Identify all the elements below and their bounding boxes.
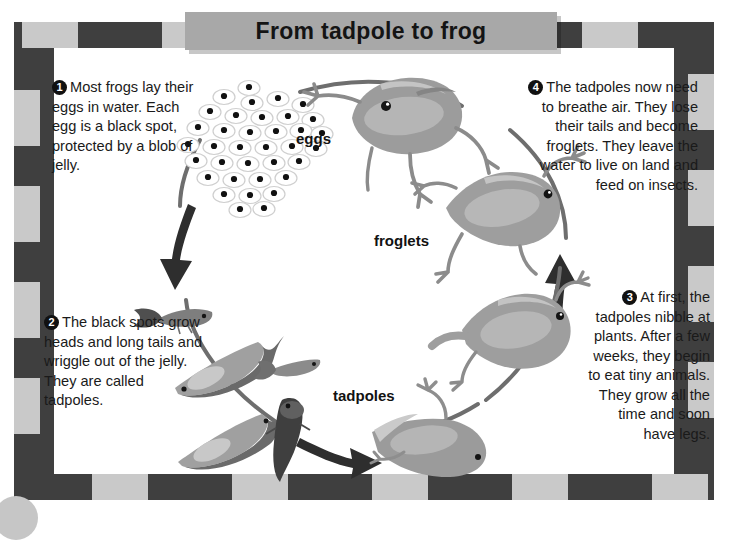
- step-4-number: 4: [528, 80, 543, 95]
- step-3-number: 3: [622, 290, 637, 305]
- step-1-number: 1: [52, 80, 67, 95]
- tadpole-small-center: [254, 360, 320, 380]
- arrow-tadpoles-to-legged: [296, 438, 382, 479]
- step-4-body: The tadpoles now need to breathe air. Th…: [540, 79, 698, 193]
- caption-froglets: froglets: [374, 232, 429, 249]
- step-1-body: Most frogs lay their eggs in water. Each…: [52, 79, 193, 173]
- caption-eggs: eggs: [296, 130, 331, 147]
- step-2-number: 2: [44, 315, 59, 330]
- arrow-eggs-to-tadpoles: [160, 204, 196, 290]
- froglet-right: [432, 272, 589, 390]
- step-3-body: At first, the tadpoles nibble at plants.…: [588, 289, 710, 442]
- page-corner-circle: [0, 496, 38, 540]
- caption-tadpoles: tadpoles: [333, 387, 395, 404]
- step-2-body: The black spots grow heads and long tail…: [44, 314, 202, 408]
- step-2-text-block: 2The black spots grow heads and long tai…: [44, 313, 204, 411]
- step-1-text-block: 1Most frogs lay their eggs in water. Eac…: [52, 78, 202, 176]
- title-banner: From tadpole to frog: [185, 12, 557, 50]
- step-3-text-block: 3At first, the tadpoles nibble at plants…: [588, 288, 710, 444]
- page-title: From tadpole to frog: [185, 12, 557, 50]
- step-4-text-block: 4The tadpoles now need to breathe air. T…: [528, 78, 698, 195]
